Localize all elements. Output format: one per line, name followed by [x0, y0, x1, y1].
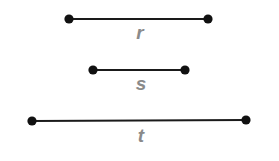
segment-s-label: s [136, 73, 147, 94]
segment-r: r [64, 14, 212, 43]
segment-t-endpoint-right [241, 115, 250, 124]
segment-t-line [32, 120, 246, 121]
segment-t: t [27, 115, 250, 146]
segment-s-endpoint-left [88, 65, 97, 74]
segment-r-label: r [136, 22, 145, 43]
segment-t-endpoint-left [27, 116, 36, 125]
segment-s-endpoint-right [180, 65, 189, 74]
segment-r-endpoint-right [203, 14, 212, 23]
segment-s: s [88, 65, 189, 94]
segment-t-label: t [138, 125, 145, 146]
segments-diagram: r s t [0, 0, 279, 161]
segment-r-endpoint-left [64, 14, 73, 23]
